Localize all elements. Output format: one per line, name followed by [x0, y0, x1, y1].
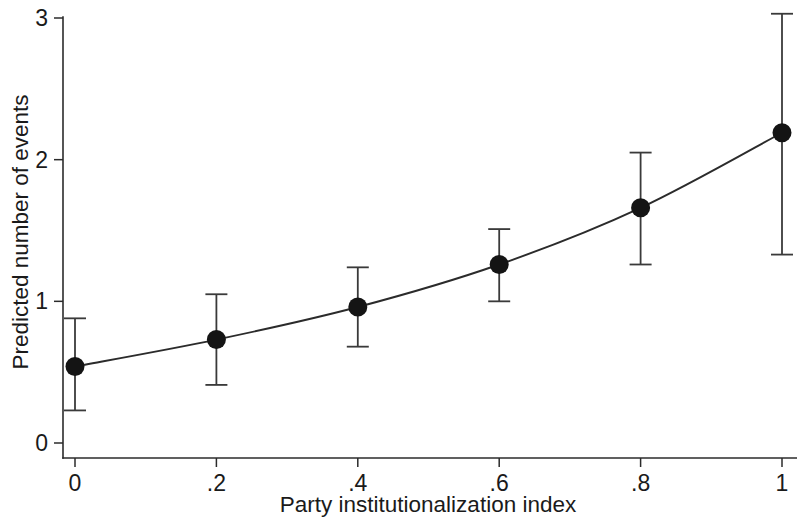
y-axis-tick-label: 3	[35, 5, 48, 31]
chart-background	[0, 0, 797, 524]
x-axis-tick-label: 1	[776, 470, 789, 496]
chart-figure: 0123 0.2.4.6.81 Predicted number of even…	[0, 0, 797, 524]
y-axis-tick-label: 2	[35, 147, 48, 173]
x-axis-tick-label: .8	[631, 470, 650, 496]
data-point-marker	[66, 357, 85, 376]
y-axis-tick-label: 1	[35, 288, 48, 314]
data-point-marker	[348, 298, 367, 317]
x-axis-title: Party institutionalization index	[280, 492, 577, 517]
data-point-marker	[207, 330, 226, 349]
y-axis-tick-label: 0	[35, 430, 48, 456]
data-point-marker	[631, 198, 650, 217]
data-point-marker	[773, 123, 792, 142]
y-axis-title: Predicted number of events	[8, 94, 33, 369]
chart-plot-area: 0123 0.2.4.6.81 Predicted number of even…	[0, 0, 797, 524]
x-axis-tick-label: .2	[207, 470, 226, 496]
x-axis-tick-label: 0	[69, 470, 82, 496]
data-point-marker	[490, 255, 509, 274]
